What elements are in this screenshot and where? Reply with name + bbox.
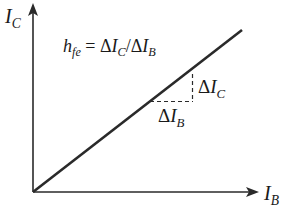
formula-h: h: [63, 36, 72, 56]
x-axis-symbol: I: [264, 182, 271, 204]
hfe-formula: hfe = ΔIC/ΔIB: [63, 37, 156, 55]
delta-ic-delta: Δ: [198, 76, 210, 97]
formula-ic: I: [112, 36, 118, 56]
formula-delta-1: Δ: [100, 36, 112, 56]
y-axis-label: IC: [5, 6, 21, 26]
delta-ic-label: ΔIC: [198, 77, 225, 96]
x-axis-subscript: B: [271, 193, 279, 208]
y-axis-symbol: I: [5, 5, 12, 27]
delta-ib-delta: Δ: [158, 105, 170, 126]
formula-equals: =: [85, 36, 95, 56]
y-axis-subscript: C: [12, 16, 21, 31]
delta-ib-symbol: I: [170, 105, 176, 126]
x-axis-label: IB: [264, 183, 279, 203]
hfe-diagram: [0, 0, 287, 215]
delta-ib-subscript: B: [177, 115, 185, 130]
formula-ic-subscript: C: [118, 45, 126, 59]
delta-ib-label: ΔIB: [158, 106, 184, 125]
delta-ic-symbol: I: [210, 76, 216, 97]
formula-h-subscript: fe: [72, 45, 81, 59]
formula-delta-2: Δ: [131, 36, 143, 56]
delta-ic-subscript: C: [217, 86, 226, 101]
formula-ib-subscript: B: [148, 45, 155, 59]
